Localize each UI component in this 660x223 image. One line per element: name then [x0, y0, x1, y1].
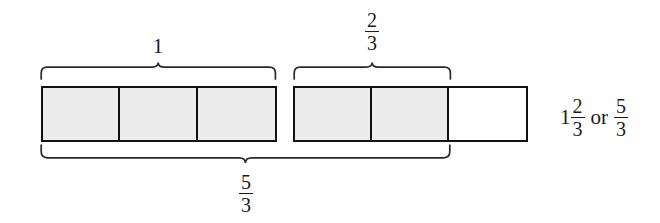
brace-five-thirds: [40, 144, 453, 164]
brace-five-thirds-label: 5 3: [226, 172, 266, 216]
fraction-denominator: 3: [614, 118, 628, 139]
fraction-denominator: 3: [571, 118, 585, 139]
fraction-five-thirds: 5 3: [239, 172, 253, 216]
fraction-numerator: 2: [365, 10, 379, 32]
brace-two-thirds: [293, 62, 453, 80]
result-whole-number: 1: [560, 107, 571, 128]
brace-whole: [40, 62, 278, 80]
result-mixed-fraction: 23: [571, 96, 585, 140]
fraction-two-thirds: 2 3: [365, 10, 379, 54]
bar1-cell-1: [43, 88, 120, 140]
result-expression: 123or53: [560, 96, 656, 140]
second-partial-bar: [293, 86, 528, 142]
first-whole-bar: [41, 86, 277, 142]
bar2-cell-1: [295, 88, 372, 140]
fraction-denominator: 3: [365, 32, 379, 53]
fraction-numerator: 2: [571, 96, 585, 118]
result-improper-fraction: 53: [614, 96, 628, 140]
fraction-bar-figure: 1 2 3 5 3: [0, 0, 660, 223]
brace-whole-label: 1: [138, 36, 178, 57]
fraction-numerator: 5: [239, 172, 253, 194]
result-conjunction: or: [585, 107, 615, 128]
bar2-cell-3: [449, 88, 526, 140]
fraction-numerator: 5: [614, 96, 628, 118]
bar1-cell-3: [198, 88, 275, 140]
bar1-cell-2: [120, 88, 199, 140]
bar2-cell-2: [372, 88, 450, 140]
brace-two-thirds-label: 2 3: [352, 10, 392, 54]
fraction-denominator: 3: [239, 194, 253, 215]
